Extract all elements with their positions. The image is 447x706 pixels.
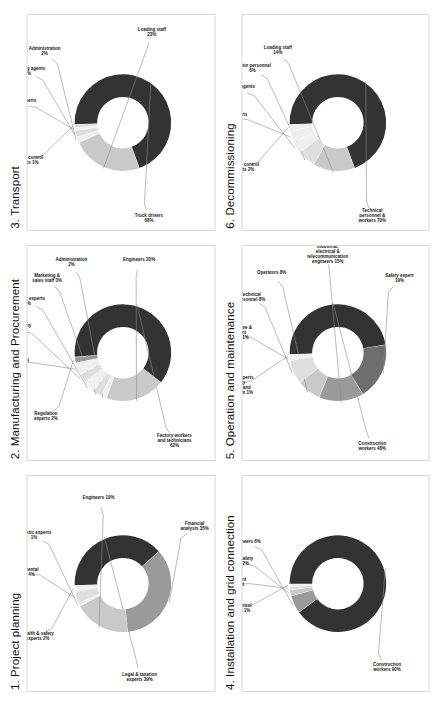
slice-label: Regulationexperts 2%: [33, 411, 57, 421]
donut-slice: [289, 535, 386, 632]
slice-label: Operators 8%: [256, 270, 285, 275]
slice-label: Safety expert19%: [384, 273, 413, 283]
leader-line: [51, 58, 75, 140]
donut-slice: [125, 552, 171, 632]
donut-chart-transport: Truck drivers68%Loading staff23%Administ…: [27, 15, 214, 230]
panel-decommissioning: 6. Decommissioning Technicalpersonnel &w…: [221, 8, 434, 237]
slice-label: Marketing &sales staff 3%: [32, 273, 62, 283]
donut-slice: [289, 305, 385, 355]
leader-line: [32, 574, 75, 598]
panel-frame-4: Constructionworkers 90%Engineers 6%Healt…: [241, 475, 430, 692]
slice-label: Administration2%: [55, 257, 87, 267]
panel-project-planning: 1. Project planning Legal & taxationexpe…: [6, 469, 219, 698]
slice-label: Financialanalysts 35%: [180, 521, 208, 531]
leader-line: [254, 547, 292, 605]
slice-label: Constructionworkers 48%: [357, 441, 386, 451]
slice-label: Technicalpersonnel 8%: [242, 292, 265, 302]
panel-manufacturing-and-procurement: 2. Manufacturing and Procurement Factory…: [6, 239, 219, 468]
donut-chart-manufacturing-and-procurement: Factory workersand technicians62%Enginee…: [27, 246, 214, 461]
donut-chart-project-planning: Legal & taxationexperts 39%Financialanal…: [27, 476, 214, 691]
panel-title-3: 3. Transport: [8, 166, 20, 229]
panel-frame-1: Legal & taxationexperts 39%Financialanal…: [26, 475, 215, 692]
leader-line: [27, 332, 80, 379]
leader-line: [169, 534, 187, 602]
slice-label: Truck drivers68%: [134, 213, 163, 223]
panel-title-4: 4. Installation and grid connection: [223, 515, 235, 690]
panel-frame-5: Constructionworkers 48%Safety expert19%I…: [241, 245, 430, 462]
leader-line: [28, 106, 73, 129]
slice-label: Health & safetyexperts 3%: [27, 324, 31, 334]
leader-line: [27, 363, 75, 370]
donut-slice: [79, 133, 139, 170]
slice-label: Quality controlpersonnel 1%: [242, 603, 251, 613]
donut-chart-decommissioning: Technicalpersonnel &workers 70%Loading s…: [242, 15, 429, 230]
slice-label: Logistic experts4%: [27, 296, 45, 306]
leader-line: [42, 541, 77, 605]
panel-installation-and-grid-connection: 4. Installation and grid connection Cons…: [221, 469, 434, 698]
slice-label: Environmentexperts 1%: [242, 577, 246, 587]
slice-label: Logistic experts4%: [242, 112, 247, 122]
panel-frame-6: Technicalpersonnel &workers 70%Loading s…: [241, 14, 430, 231]
slice-label: Legal & taxationexperts 39%: [122, 672, 157, 682]
slice-label: Constructionworkers 90%: [371, 662, 400, 672]
donut-svg: Truck drivers68%Loading staff23%Administ…: [27, 15, 214, 230]
slice-label: Industrial,electrical &telecommunication…: [306, 246, 347, 264]
slice-label: Shipping agents4%: [242, 83, 255, 93]
slice-label: Shipping agents2%: [27, 65, 45, 75]
panel-grid: 1. Project planning Legal & taxationexpe…: [0, 0, 447, 706]
leader-line: [382, 287, 392, 374]
slice-label: Quality controlexperts 4%: [27, 358, 29, 368]
panel-title-1: 1. Project planning: [8, 593, 20, 690]
figure-rotator: 1. Project planning Legal & taxationexpe…: [0, 0, 447, 706]
donut-slice: [74, 535, 158, 585]
leader-line: [36, 76, 74, 133]
donut-svg: Constructionworkers 90%Engineers 6%Healt…: [242, 476, 429, 691]
donut-chart-operation-and-maintenance: Constructionworkers 48%Safety expert19%I…: [242, 246, 429, 461]
donut-svg: Technicalpersonnel &workers 70%Loading s…: [242, 15, 429, 230]
slice-label: Logistic experts1%: [27, 530, 51, 540]
donut-svg: Factory workersand technicians62%Enginee…: [27, 246, 214, 461]
panel-transport: 3. Transport Truck drivers68%Loading sta…: [6, 8, 219, 237]
donut-svg: Legal & taxationexperts 39%Financialanal…: [27, 476, 214, 691]
slice-label: Engineers 20%: [123, 257, 155, 262]
leader-line: [251, 127, 287, 164]
slice-label: Administrative &accountantpersonnel 1%: [242, 326, 252, 341]
slice-label: Loading staff23%: [137, 27, 166, 37]
leader-line: [258, 304, 291, 373]
leader-line: [246, 93, 294, 148]
slice-label: Quality controlagents 2%: [242, 162, 258, 172]
slice-label: Environmentalexperts 4%: [27, 567, 38, 577]
donut-svg: Constructionworkers 48%Safety expert19%I…: [242, 246, 429, 461]
leader-line: [243, 336, 288, 359]
slice-label: Engineers 19%: [82, 495, 114, 500]
slice-label: Lawyers, expertsin energyregulation andm…: [242, 375, 254, 395]
panel-title-2: 2. Manufacturing and Procurement: [8, 279, 20, 459]
panel-operation-and-maintenance: 5. Operation and maintenance Constructio…: [221, 239, 434, 468]
slice-label: Admin personnel6%: [242, 63, 270, 73]
leader-line: [36, 126, 73, 158]
slice-label: Health & safetyexperts 2%: [242, 556, 253, 566]
leader-line: [53, 360, 73, 411]
panel-frame-3: Truck drivers68%Loading staff23%Administ…: [26, 14, 215, 231]
slice-label: Engineers 6%: [242, 539, 260, 544]
slice-label: Factory workersand technicians62%: [157, 433, 192, 448]
panel-title-5: 5. Operation and maintenance: [223, 302, 235, 460]
panel-frame-2: Factory workersand technicians62%Enginee…: [26, 245, 215, 462]
slice-label: Loading staff14%: [263, 44, 292, 54]
leader-line: [45, 589, 72, 632]
slice-label: Quality controlagents 1%: [27, 154, 43, 164]
slice-label: Administration2%: [28, 45, 60, 55]
panel-title-6: 6. Decommissioning: [223, 123, 235, 228]
slice-label: Technicalpersonnel &workers 70%: [357, 208, 386, 223]
donut-chart-installation-and-grid-connection: Constructionworkers 90%Engineers 6%Healt…: [242, 476, 429, 691]
slice-label: Health & safetyexperts 2%: [27, 631, 54, 641]
